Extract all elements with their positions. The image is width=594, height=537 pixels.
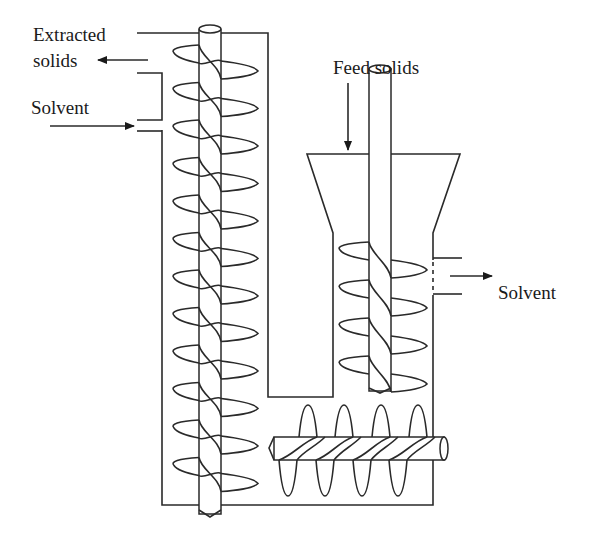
extracted-solids-label: Extracted xyxy=(33,24,106,45)
vertical-screw-conveyor xyxy=(173,25,258,517)
extractor-diagram: Extracted solids Solvent Feed solids Sol… xyxy=(0,0,594,537)
feed-solids-label: Feed solids xyxy=(333,57,419,78)
solvent-in-label: Solvent xyxy=(31,97,89,118)
horizontal-screw-conveyor xyxy=(269,405,448,496)
extracted-solids-label-line2: solids xyxy=(33,50,77,71)
feed-screw-conveyor xyxy=(339,65,427,393)
solvent-out-label: Solvent xyxy=(498,282,556,303)
